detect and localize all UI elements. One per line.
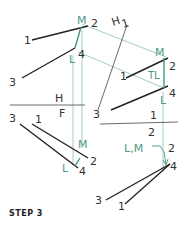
line-1-2-aux2 bbox=[125, 164, 170, 204]
line-3-4-top bbox=[22, 48, 75, 78]
label-1-aux2: 1 bbox=[118, 200, 125, 213]
connector-ml-top bbox=[75, 27, 81, 48]
label-2-fold-2: 2 bbox=[148, 126, 155, 139]
label-3-front: 3 bbox=[9, 112, 16, 125]
label-4-aux1: 4 bbox=[169, 87, 176, 100]
label-l-top: L bbox=[69, 53, 76, 66]
label-1-front: 1 bbox=[35, 113, 42, 126]
label-3-aux2: 3 bbox=[95, 194, 102, 207]
label-2-front: 2 bbox=[90, 155, 97, 168]
label-1-aux1: 1 bbox=[120, 70, 127, 83]
label-f-fold: F bbox=[59, 107, 65, 120]
label-3-top: 3 bbox=[9, 76, 16, 89]
folding-line-1-2 bbox=[100, 122, 178, 124]
label-tl-aux1: TL bbox=[147, 70, 160, 81]
label-4-top: 4 bbox=[78, 48, 85, 61]
label-m-aux1: M bbox=[155, 46, 165, 59]
label-l-front: L bbox=[62, 162, 69, 175]
label-4-front: 4 bbox=[79, 165, 86, 178]
label-1-fold-2: 1 bbox=[150, 109, 157, 122]
folding-line-h1 bbox=[98, 25, 127, 110]
line-1-2-aux1 bbox=[126, 58, 168, 78]
label-m-top: M bbox=[77, 14, 87, 27]
label-2-aux2: 2 bbox=[168, 142, 175, 155]
label-1-top: 1 bbox=[24, 34, 31, 47]
label-2-aux1: 2 bbox=[169, 60, 176, 73]
label-4-aux2: 4 bbox=[170, 160, 177, 173]
label-2-top: 2 bbox=[91, 17, 98, 30]
label-h-fold: H bbox=[55, 92, 63, 105]
label-l-aux1: L bbox=[160, 94, 167, 107]
step-caption: STEP 3 bbox=[9, 209, 43, 218]
label-1-fold-aux: 1 bbox=[120, 16, 131, 31]
line-3-4-aux2 bbox=[106, 164, 170, 200]
descriptive-geometry-diagram: M 2 1 4 L 3 H F H 1 M 2 1 TL 4 L 3 1 2 3… bbox=[0, 0, 190, 225]
label-3-aux1: 3 bbox=[93, 108, 100, 121]
label-lm-aux2: L,M bbox=[124, 142, 143, 155]
label-m-front: M bbox=[78, 138, 88, 151]
